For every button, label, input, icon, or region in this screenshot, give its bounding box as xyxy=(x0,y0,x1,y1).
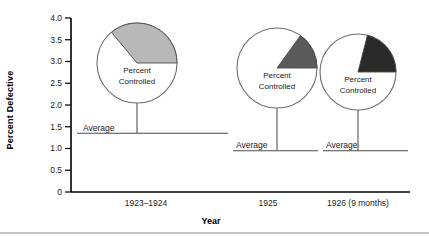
chart-canvas: Percent Defective 0 0.5 1.0 1.5 2.0 2.5 … xyxy=(0,0,429,236)
y-tick-label: 4.0 xyxy=(50,13,62,23)
pie-label-line1: Percent xyxy=(123,66,151,75)
chart-figure: Percent Defective 0 0.5 1.0 1.5 2.0 2.5 … xyxy=(0,0,429,236)
y-axis-title: Percent Defective xyxy=(5,71,15,150)
x-category-label: 1925 xyxy=(259,198,278,208)
pie-label-line2: Controlled xyxy=(119,77,155,86)
y-tick-label: 2.5 xyxy=(50,78,62,88)
pie-label-line1: Percent xyxy=(344,75,372,84)
pie-group-1925: Average Percent Controlled xyxy=(233,28,318,151)
y-axis-ticks: 0 0.5 1.0 1.5 2.0 2.5 3.0 3.5 4.0 xyxy=(50,13,71,197)
y-tick-label: 0 xyxy=(57,187,62,197)
pie-group-1923-1924: Average Percent Controlled xyxy=(77,23,228,133)
y-tick-label: 1.5 xyxy=(50,122,62,132)
y-tick-label: 0.5 xyxy=(50,165,62,175)
y-tick-label: 3.0 xyxy=(50,56,62,66)
x-category-label: 1926 (9 months) xyxy=(327,198,389,208)
y-tick-label: 3.5 xyxy=(50,35,62,45)
y-tick-label: 1.0 xyxy=(50,143,62,153)
average-label: Average xyxy=(236,140,268,150)
average-label: Average xyxy=(326,140,358,150)
pie-group-1926: Average Percent Controlled xyxy=(320,34,408,151)
x-axis-title: Year xyxy=(201,216,221,226)
pie-label-line2: Controlled xyxy=(340,86,376,95)
y-tick-label: 2.0 xyxy=(50,100,62,110)
x-category-label: 1923–1924 xyxy=(125,198,168,208)
average-label: Average xyxy=(83,123,115,133)
pie-label-line1: Percent xyxy=(263,71,291,80)
pie-label-line2: Controlled xyxy=(259,82,295,91)
